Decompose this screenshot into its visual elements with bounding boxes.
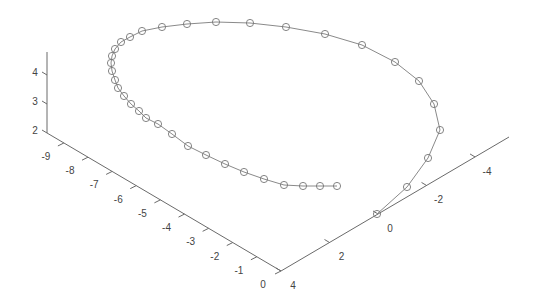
x-tick [58,143,64,146]
x-tick-label: -7 [90,179,99,190]
z-tick-label: 2 [32,125,38,136]
x-tick-label: 0 [260,279,266,290]
curve-layer [107,18,443,217]
y-tick-label: 2 [339,251,345,262]
x-tick [275,271,281,274]
x-tick [106,171,112,174]
y-tick [276,268,281,271]
axes: 0-1-2-3-4-5-6-7-8-9420-2-4234 [32,52,509,291]
y-tick [422,182,427,185]
z-tick [42,72,47,75]
x-tick [179,214,185,217]
y-tick-label: 0 [387,223,393,234]
y-tick-label: -4 [483,166,492,177]
x-tick-label: -1 [234,265,243,276]
z-tick [42,130,47,133]
z-tick-label: 3 [32,96,38,107]
series-line [111,22,440,214]
x-tick-label: -2 [210,251,219,262]
x-tick-label: -5 [138,208,147,219]
x-tick-label: -4 [162,222,171,233]
z-tick [42,101,47,104]
x-tick-label: -3 [186,236,195,247]
x-tick [227,243,233,246]
chart-3d: 0-1-2-3-4-5-6-7-8-9420-2-4234 [0,0,535,307]
x-axis-line [47,133,281,271]
x-tick [203,228,209,231]
x-tick [130,186,136,189]
x-tick [154,200,160,203]
x-tick [251,257,257,260]
y-tick-label: 4 [290,280,296,291]
z-tick-label: 4 [32,67,38,78]
x-tick-label: -9 [41,151,50,162]
y-tick [325,239,330,242]
x-tick-label: -6 [114,194,123,205]
x-tick [82,157,88,160]
y-tick [470,154,475,157]
x-tick-label: -8 [66,165,75,176]
y-tick-label: -2 [434,194,443,205]
